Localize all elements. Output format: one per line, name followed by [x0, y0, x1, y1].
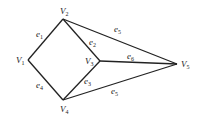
edge-e2: [63, 19, 100, 61]
edge-label-e1: e1: [36, 29, 43, 40]
edge-e5: [63, 19, 177, 64]
vertex-label-v1: V1: [16, 55, 25, 66]
edge-e4: [28, 60, 63, 100]
edge-label-e7: e5: [111, 86, 118, 97]
vertex-label-v5: V5: [181, 59, 190, 70]
graph-diagram: e1e2e3e4e5e6e5V1V2V3V4V5: [0, 0, 203, 130]
vertex-label-v4: V4: [60, 104, 69, 115]
edge-e1: [28, 19, 63, 60]
edge-label-e6: e6: [127, 51, 134, 62]
vertex-label-v3: V3: [85, 56, 94, 67]
vertex-label-v2: V2: [60, 6, 69, 17]
edge-label-e4: e4: [36, 80, 43, 91]
edge-label-e3: e3: [84, 76, 91, 87]
edges: [28, 19, 177, 100]
edge-label-e5: e5: [114, 24, 121, 35]
edge-label-e2: e2: [89, 37, 96, 48]
edge-e6: [100, 61, 177, 64]
